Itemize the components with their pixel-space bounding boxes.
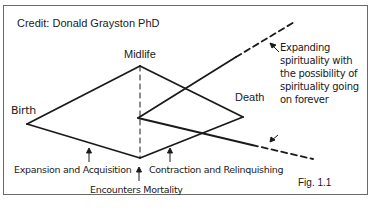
arrow-up-expansion-icon	[87, 148, 92, 162]
figure-label: Fig. 1.1	[298, 178, 331, 188]
line-birth-bottom	[27, 124, 140, 158]
annotation-mortality: Encounters Mortality	[90, 185, 183, 195]
line-midlife-death	[140, 66, 243, 117]
credit-text: Credit: Donald Grayston PhD	[17, 18, 159, 29]
node-label-death: Death	[235, 92, 264, 103]
line-bottom-death	[140, 117, 243, 158]
arrow-up-mortality-icon	[137, 167, 142, 181]
arrow-to-upper-ray-icon	[270, 43, 279, 52]
annotation-contraction: Contraction and Relinquishing	[149, 165, 283, 175]
annotation-expansion: Expansion and Acquisition	[14, 165, 131, 175]
upper-ray-solid	[138, 57, 236, 118]
annotation-expanding-spirituality: Expanding spirituality with the possibil…	[280, 41, 370, 106]
cutoff-text-strip: …	[0, 200, 374, 213]
arrow-to-lower-ray-icon	[270, 135, 278, 142]
node-label-birth: Birth	[11, 105, 36, 116]
lower-ray-dashed	[252, 145, 313, 159]
line-birth-midlife	[27, 66, 140, 124]
node-label-midlife: Midlife	[124, 49, 156, 60]
arrow-up-contraction-icon	[168, 148, 173, 162]
lower-ray-solid	[138, 118, 252, 145]
